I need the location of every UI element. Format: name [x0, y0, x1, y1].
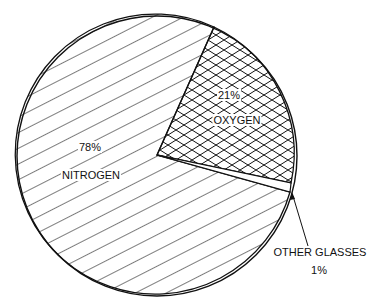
other-glasses-name-label: OTHER GLASSES — [273, 246, 368, 258]
oxygen-percent-label: 21% — [217, 89, 241, 101]
oxygen-name-label: OXYGEN — [212, 114, 261, 126]
pie-chart — [0, 0, 376, 308]
nitrogen-percent-label: 78% — [78, 141, 102, 153]
nitrogen-name-label: NITROGEN — [61, 169, 121, 181]
callout-line — [293, 196, 308, 246]
other-glasses-percent-label: 1% — [310, 264, 328, 276]
